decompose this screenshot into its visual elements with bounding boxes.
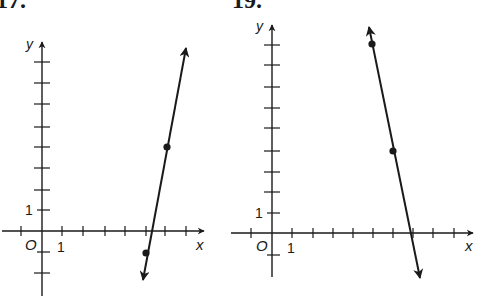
figure: 17. 19. [0, 0, 478, 298]
graph-17-points [142, 143, 170, 256]
x-unit-label: 1 [57, 239, 65, 255]
y-unit-label: 1 [25, 202, 33, 218]
x-unit-label: 1 [287, 240, 295, 256]
point-5-neg1 [142, 249, 149, 256]
graph-19-labels: y x O 1 1 [255, 18, 473, 256]
graphs-canvas: y x O 1 1 [0, 0, 478, 298]
x-axis-label: x [464, 237, 473, 254]
graph-17 [2, 42, 204, 296]
y-unit-label: 1 [255, 205, 263, 221]
origin-label: O [256, 237, 268, 254]
plotted-line-17 [143, 48, 186, 280]
point-6-4 [163, 143, 170, 150]
origin-label: O [25, 236, 37, 253]
y-axis-label: y [25, 36, 34, 52]
point-5-9 [368, 40, 375, 47]
x-axis-label: x [195, 236, 204, 253]
y-axis-label: y [255, 18, 264, 34]
graph-17-labels: y x O 1 1 [25, 36, 204, 255]
point-6-4 [389, 147, 396, 154]
